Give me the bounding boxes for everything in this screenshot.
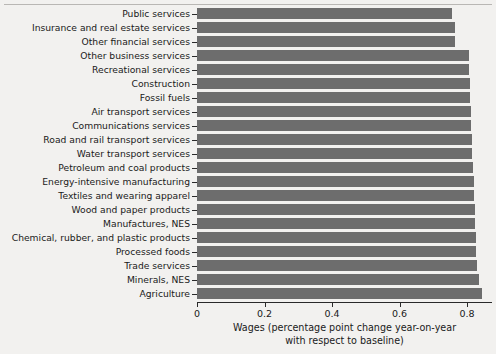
bar bbox=[197, 64, 469, 75]
bar-fill bbox=[197, 8, 452, 19]
bar bbox=[197, 204, 475, 215]
y-axis-tick bbox=[192, 266, 197, 267]
x-axis-tick-label: 0 bbox=[194, 308, 200, 320]
x-axis-tick bbox=[332, 303, 333, 307]
bar-fill bbox=[197, 134, 472, 145]
y-axis-tick bbox=[192, 112, 197, 113]
y-axis-label: Processed foods bbox=[0, 246, 190, 257]
x-axis-line bbox=[197, 302, 492, 303]
y-axis-label: Minerals, NES bbox=[0, 274, 190, 285]
bar-fill bbox=[197, 204, 475, 215]
x-axis-tick bbox=[265, 303, 266, 307]
bar bbox=[197, 218, 475, 229]
bar-fill bbox=[197, 162, 473, 173]
bar-fill bbox=[197, 190, 474, 201]
y-axis-label: Communications services bbox=[0, 120, 190, 131]
bar bbox=[197, 50, 469, 61]
y-axis-category-labels: Public servicesInsurance and real estate… bbox=[0, 8, 190, 302]
y-axis-label: Trade services bbox=[0, 260, 190, 271]
bar-fill bbox=[197, 64, 469, 75]
bar-fill bbox=[197, 120, 471, 131]
y-axis-tick bbox=[192, 14, 197, 15]
bar bbox=[197, 288, 482, 299]
bar bbox=[197, 106, 471, 117]
y-axis-label: Petroleum and coal products bbox=[0, 162, 190, 173]
y-axis-label: Energy-intensive manufacturing bbox=[0, 176, 190, 187]
bar-fill bbox=[197, 92, 470, 103]
bar bbox=[197, 134, 472, 145]
y-axis-tick bbox=[192, 224, 197, 225]
bar bbox=[197, 162, 473, 173]
y-axis-label: Insurance and real estate services bbox=[0, 22, 190, 33]
y-axis-tick bbox=[192, 154, 197, 155]
y-axis-tick bbox=[192, 140, 197, 141]
y-axis-tick bbox=[192, 28, 197, 29]
y-axis-tick bbox=[192, 238, 197, 239]
y-axis-tick bbox=[192, 126, 197, 127]
y-axis-tick bbox=[192, 252, 197, 253]
y-axis-tick bbox=[192, 70, 197, 71]
x-axis-tick-label: 0.2 bbox=[257, 308, 272, 320]
x-axis-tick-label: 0.6 bbox=[392, 308, 407, 320]
bar bbox=[197, 92, 470, 103]
y-axis-label: Public services bbox=[0, 8, 190, 19]
y-axis-label: Manufactures, NES bbox=[0, 218, 190, 229]
x-axis-tick bbox=[467, 303, 468, 307]
x-axis-title-line-1: Wages (percentage point change year-on-y… bbox=[197, 322, 492, 335]
y-axis-label: Fossil fuels bbox=[0, 92, 190, 103]
bar-fill bbox=[197, 260, 477, 271]
x-axis-tick bbox=[197, 303, 198, 307]
y-axis-label: Construction bbox=[0, 78, 190, 89]
bar bbox=[197, 246, 476, 257]
y-axis-label: Other financial services bbox=[0, 36, 190, 47]
figure-top-rule bbox=[4, 4, 492, 5]
bar-fill bbox=[197, 246, 476, 257]
y-axis-tick bbox=[192, 168, 197, 169]
x-axis-tick bbox=[400, 303, 401, 307]
bar bbox=[197, 22, 455, 33]
y-axis-label: Air transport services bbox=[0, 106, 190, 117]
y-axis-label: Chemical, rubber, and plastic products bbox=[0, 232, 190, 243]
y-axis-tick bbox=[192, 294, 197, 295]
y-axis-tick bbox=[192, 210, 197, 211]
bar bbox=[197, 36, 455, 47]
bar-fill bbox=[197, 36, 455, 47]
bar-fill bbox=[197, 288, 482, 299]
x-axis-title: Wages (percentage point change year-on-y… bbox=[197, 322, 492, 347]
bar bbox=[197, 260, 477, 271]
y-axis-tick bbox=[192, 84, 197, 85]
bar-fill bbox=[197, 218, 475, 229]
bar-fill bbox=[197, 22, 455, 33]
bar-fill bbox=[197, 78, 470, 89]
y-axis-tick bbox=[192, 98, 197, 99]
y-axis-label: Water transport services bbox=[0, 148, 190, 159]
bar-fill bbox=[197, 176, 474, 187]
bar bbox=[197, 176, 474, 187]
bar bbox=[197, 8, 452, 19]
bar-fill bbox=[197, 50, 469, 61]
y-axis-tick bbox=[192, 42, 197, 43]
bar-fill bbox=[197, 274, 479, 285]
bar bbox=[197, 274, 479, 285]
y-axis-tick bbox=[192, 56, 197, 57]
y-axis-tick bbox=[192, 196, 197, 197]
y-axis-label: Road and rail transport services bbox=[0, 134, 190, 145]
bar-chart-figure: Public servicesInsurance and real estate… bbox=[0, 0, 496, 354]
y-axis-tick bbox=[192, 182, 197, 183]
bar-fill bbox=[197, 148, 472, 159]
y-axis-label: Agriculture bbox=[0, 288, 190, 299]
bar bbox=[197, 78, 470, 89]
bar bbox=[197, 120, 471, 131]
x-axis-tick-label: 0.4 bbox=[324, 308, 339, 320]
bar bbox=[197, 190, 474, 201]
x-axis-tick-label: 0.8 bbox=[459, 308, 474, 320]
bar-fill bbox=[197, 232, 476, 243]
y-axis-label: Other business services bbox=[0, 50, 190, 61]
x-axis-title-line-2: with respect to baseline) bbox=[197, 335, 492, 348]
y-axis-label: Recreational services bbox=[0, 64, 190, 75]
bar bbox=[197, 232, 476, 243]
plot-area bbox=[197, 8, 492, 302]
y-axis-tick bbox=[192, 280, 197, 281]
y-axis-label: Textiles and wearing apparel bbox=[0, 190, 190, 201]
bar-fill bbox=[197, 106, 471, 117]
